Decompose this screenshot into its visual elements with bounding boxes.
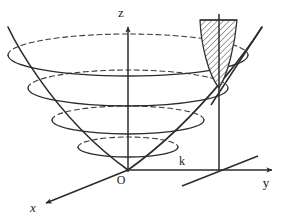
x-axis-label: x: [29, 200, 36, 215]
paraboloid-figure: z y x O k: [0, 0, 288, 218]
origin-label: O: [117, 173, 126, 187]
figure-canvas: z y x O k: [0, 0, 288, 218]
z-axis-label: z: [118, 5, 124, 20]
k-label: k: [179, 154, 185, 168]
parallel-line-through-k: [182, 156, 258, 186]
y-axis-label: y: [263, 175, 270, 190]
